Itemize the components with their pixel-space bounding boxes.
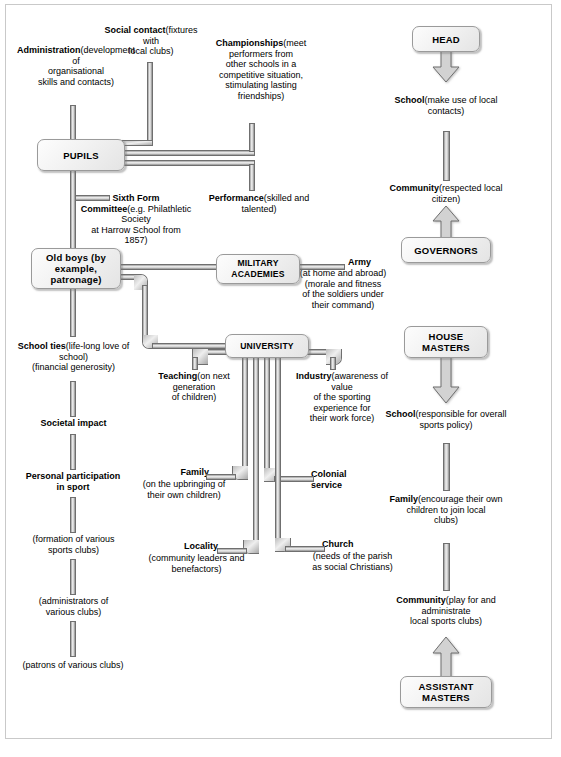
box-university[interactable]: UNIVERSITY — [225, 334, 309, 358]
box-pupils-label: PUPILS — [63, 150, 99, 161]
pipe-social-contact-elbow — [122, 140, 153, 146]
pipe-oldboys-to-school-ties — [70, 288, 76, 337]
label-house-family-detail: (encourage their own children to join lo… — [406, 494, 502, 525]
label-administration-title: Administration — [17, 45, 81, 55]
label-head-school-detail: (make use of local contacts) — [424, 95, 497, 116]
pipe-pupils-to-sixth-form — [75, 195, 110, 201]
label-formation-clubs: (formation of various sports clubs) — [11, 534, 136, 555]
pipe-social-contact-vertical — [147, 62, 153, 146]
label-head-community: Community(respected local citizen) — [381, 183, 511, 204]
label-family-univ-detail: (on the upbringing of their own children… — [124, 479, 244, 500]
pipe-societal-to-personal — [70, 434, 76, 470]
label-family-univ-title: Family — [129, 467, 209, 478]
label-house-community: Community(play for and administrate loca… — [381, 595, 511, 627]
label-personal-participation: Personal participation in sport — [6, 471, 140, 492]
arrow-assistantmasters-to-community — [431, 636, 461, 680]
box-assistant-masters[interactable]: ASSISTANT MASTERS — [400, 676, 492, 708]
pipe-pupils-to-oldboys — [70, 170, 76, 249]
box-house-masters[interactable]: HOUSE MASTERS — [404, 326, 488, 358]
arrow-head-to-school — [431, 50, 461, 83]
box-house-masters-label: HOUSE MASTERS — [405, 331, 487, 353]
label-head-community-detail: (respected local citizen) — [432, 183, 503, 204]
label-house-community-title: Community — [396, 595, 446, 605]
pipe-univ-colonial-v — [264, 357, 270, 475]
pipe-school-to-community — [443, 131, 450, 181]
box-governors[interactable]: GOVERNORS — [401, 237, 491, 263]
label-personal-participation-title: Personal participation in sport — [26, 471, 121, 492]
pipe-house-family-to-community — [443, 543, 450, 591]
label-church-detail: (needs of the parish as social Christian… — [290, 551, 415, 572]
label-house-family-title: Family — [389, 494, 418, 504]
arrow-housemasters-to-school — [431, 356, 461, 404]
label-locality-detail: (community leaders and benefactors) — [134, 553, 259, 574]
box-head[interactable]: HEAD — [412, 26, 480, 52]
label-administrators-clubs: (administrators of various clubs) — [11, 596, 136, 617]
label-teaching: Teaching(on next generation of children) — [146, 371, 242, 403]
label-societal-impact: Societal impact — [16, 418, 131, 429]
label-social-contact-title: Social contact — [104, 25, 165, 35]
pipe-pupils-to-championships-h — [123, 150, 255, 156]
box-military-academies-label: MILITARY ACADEMIES — [217, 258, 299, 280]
label-head-school-title: School — [394, 95, 424, 105]
box-military-academies[interactable]: MILITARY ACADEMIES — [216, 254, 300, 284]
pipe-univ-family-v — [242, 357, 248, 473]
box-governors-label: GOVERNORS — [414, 245, 478, 256]
pipe-univ-teaching-v — [192, 357, 198, 370]
label-colonial-service: Colonial service — [311, 469, 381, 490]
pipe-univ-locality-v — [253, 357, 259, 547]
label-locality-title: Locality — [146, 541, 218, 552]
diagram-frame: Administration(development of organisati… — [5, 4, 552, 739]
pipe-univ-locality-h — [217, 548, 247, 554]
box-assistant-masters-label: ASSISTANT MASTERS — [401, 681, 491, 703]
arrow-governors-to-community — [431, 205, 461, 239]
pipe-pupils-to-performance-h — [123, 160, 255, 166]
pipe-pupils-to-championships-v — [249, 123, 255, 152]
pipe-oldboys-univ-v — [142, 285, 148, 340]
pipe-personal-to-formation — [70, 497, 76, 533]
label-church-title: Church — [322, 539, 382, 550]
box-old-boys-label: Old boys (by example, patronage) — [32, 252, 120, 285]
label-social-contact: Social contact(fixtures with local clubs… — [101, 25, 201, 57]
box-old-boys[interactable]: Old boys (by example, patronage) — [31, 248, 121, 289]
box-pupils[interactable]: PUPILS — [37, 139, 125, 171]
pipe-univ-family-h — [206, 474, 236, 480]
label-house-school-detail: (responsible for overall sports policy) — [415, 409, 506, 430]
label-industry: Industry(awareness of value of the sport… — [288, 371, 396, 424]
figure-caption — [2, 750, 4, 756]
pipe-univ-church-h — [285, 546, 325, 552]
label-championships: Championships(meet performers from other… — [196, 38, 326, 102]
pipe-univ-industry-v — [330, 357, 336, 370]
label-industry-title: Industry — [296, 371, 332, 381]
box-university-label: UNIVERSITY — [240, 341, 294, 352]
pipe-house-school-to-family — [443, 443, 450, 491]
label-head-school: School(make use of local contacts) — [391, 95, 501, 116]
pipe-formation-to-administrators — [70, 559, 76, 595]
label-performance: Performance(skilled and talented) — [194, 193, 324, 214]
label-army-title: Army — [348, 257, 371, 267]
label-school-ties: School ties(life-long love of school) (f… — [11, 341, 136, 373]
box-head-label: HEAD — [432, 34, 460, 45]
label-teaching-title: Teaching — [158, 371, 197, 381]
pipe-administrators-to-patrons — [70, 621, 76, 657]
pipe-pupils-to-performance-v — [249, 164, 255, 191]
pipe-school-ties-to-societal — [70, 381, 76, 417]
label-school-ties-title: School ties — [18, 341, 66, 351]
label-patrons-clubs: (patrons of various clubs) — [6, 660, 140, 671]
pipe-univ-church-v — [275, 357, 281, 545]
label-house-school: School(responsible for overall sports po… — [381, 409, 511, 430]
label-house-school-title: School — [385, 409, 415, 419]
pipe-oldboys-to-military — [118, 264, 218, 270]
label-house-family: Family(encourage their own children to j… — [386, 494, 506, 526]
label-performance-title: Performance — [209, 193, 264, 203]
label-championships-title: Championships — [216, 38, 284, 48]
label-head-community-title: Community — [389, 183, 439, 193]
label-army-detail: (at home and abroad) (morale and fitness… — [283, 268, 403, 310]
label-societal-impact-title: Societal impact — [40, 418, 106, 428]
pipe-military-to-army — [297, 264, 345, 270]
